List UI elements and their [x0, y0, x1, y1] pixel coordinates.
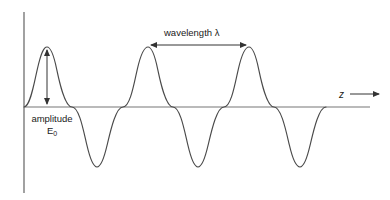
- wave-diagram-figure: amplitude E0 wavelength λ z: [0, 0, 390, 200]
- z-axis-label: z: [339, 89, 344, 101]
- amplitude-symbol-subscript: 0: [53, 130, 57, 137]
- amplitude-label-text: amplitude: [31, 113, 72, 124]
- wavelength-label: wavelength λ: [164, 27, 219, 39]
- amplitude-symbol: E0: [24, 125, 80, 138]
- amplitude-label: amplitude E0: [24, 113, 80, 138]
